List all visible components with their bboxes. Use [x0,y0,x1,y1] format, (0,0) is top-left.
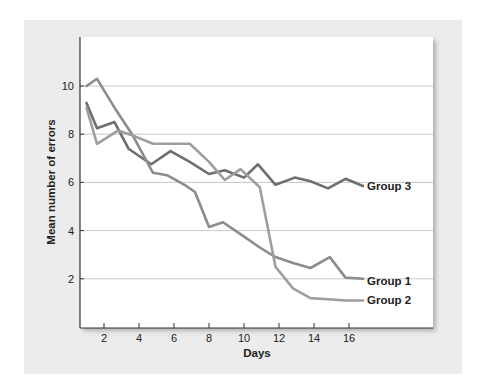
y-axis-title: Mean number of errors [45,119,57,244]
x-axis-title: Days [243,347,271,359]
x-tick-label: 10 [238,332,250,344]
y-tick-label: 4 [68,225,74,237]
y-tick-label: 6 [68,176,74,188]
x-tick-label: 12 [273,332,285,344]
y-tick-label: 10 [62,80,74,92]
series-label-group-1: Group 1 [367,275,412,287]
x-tick-label: 16 [343,332,355,344]
line-chart: 246810246810121416 Group 3Group 1Group 2… [0,0,480,392]
y-tick-label: 8 [68,128,74,140]
x-tick-label: 14 [308,332,320,344]
x-tick-label: 8 [206,332,212,344]
y-tick-label: 2 [68,273,74,285]
x-tick-label: 4 [136,332,142,344]
series-label-group-2: Group 2 [367,294,411,306]
series-label-group-3: Group 3 [367,180,411,192]
x-tick-label: 2 [101,332,107,344]
x-tick-label: 6 [171,332,177,344]
